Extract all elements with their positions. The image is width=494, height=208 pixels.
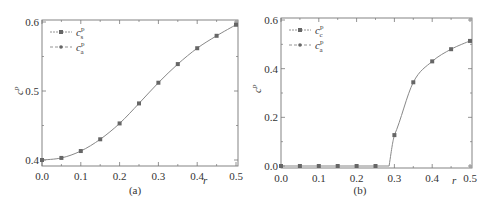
x-axis: 0.00.10.20.30.40.5 <box>35 20 243 182</box>
plot-frame <box>42 20 238 166</box>
chart-a: 0.00.10.20.30.40.50.40.50.6cpr(a)cpscpa <box>0 0 247 208</box>
data-point-marker <box>98 137 102 141</box>
data-point-marker <box>468 39 472 43</box>
x-tick-label: 0.0 <box>274 172 288 184</box>
y-axis-label: cp <box>12 86 25 95</box>
data-point-marker <box>79 149 83 153</box>
x-tick-label: 0.2 <box>113 170 127 182</box>
legend-entry: cpc <box>315 23 324 39</box>
x-tick-label: 0.5 <box>463 172 477 184</box>
y-tick-label: 0.6 <box>25 16 39 28</box>
data-point-marker <box>195 46 199 50</box>
data-point-marker <box>317 164 321 168</box>
x-tick-label: 0.1 <box>312 172 326 184</box>
y-tick-label: 0.4 <box>25 154 39 166</box>
figure: 0.00.10.20.30.40.50.40.50.6cpr(a)cpscpa … <box>0 0 494 208</box>
data-point-marker <box>118 121 122 125</box>
y-tick-label: 0.5 <box>25 85 39 97</box>
y-axis: 0.00.20.40.6 <box>264 14 472 172</box>
x-tick-label: 0.3 <box>388 172 402 184</box>
data-point-marker <box>40 158 44 162</box>
panel-label: (a) <box>129 184 142 197</box>
data-point-marker <box>430 59 434 63</box>
x-tick-label: 0.4 <box>425 172 439 184</box>
series-line <box>281 41 470 166</box>
x-tick-label: 0.2 <box>350 172 364 184</box>
plot-frame <box>281 18 472 168</box>
data-point-marker <box>234 23 238 27</box>
panel-label: (b) <box>354 184 367 197</box>
data-point-marker <box>137 101 141 105</box>
data-point-marker <box>374 164 378 168</box>
x-axis: 0.00.10.20.30.40.5 <box>274 18 477 184</box>
legend: cpscpa <box>50 25 85 56</box>
data-point-marker <box>215 34 219 38</box>
y-tick-label: 0.0 <box>264 160 278 172</box>
data-point-marker <box>59 156 63 160</box>
series-line <box>42 25 236 160</box>
y-tick-label: 0.4 <box>264 63 278 75</box>
x-tick-label: 0.1 <box>74 170 88 182</box>
y-tick-label: 0.2 <box>264 111 278 123</box>
data-point-marker <box>392 133 396 137</box>
legend-entry: cpa <box>76 40 85 56</box>
data-point-marker <box>355 164 359 168</box>
x-tick-label: 0.0 <box>35 170 49 182</box>
data-point-marker <box>176 62 180 66</box>
y-axis: 0.40.50.6 <box>25 16 238 166</box>
legend-entry: cpa <box>315 38 324 54</box>
data-point-marker <box>298 164 302 168</box>
y-tick-label: 0.6 <box>264 14 278 26</box>
x-tick-label: 0.5 <box>229 170 243 182</box>
data-point-marker <box>336 164 340 168</box>
legend-entry: cps <box>76 25 85 41</box>
data-point-marker <box>411 80 415 84</box>
data-point-marker <box>156 81 160 85</box>
legend: cpccpa <box>289 23 324 54</box>
data-point-marker <box>279 164 283 168</box>
x-axis-label: r <box>452 174 457 186</box>
data-point-marker <box>449 47 453 51</box>
x-tick-label: 0.3 <box>152 170 166 182</box>
y-axis-label: cp <box>250 84 263 93</box>
chart-b: 0.00.10.20.30.40.50.00.20.40.6cpr(b)cpcc… <box>244 0 491 208</box>
x-axis-label: r <box>203 174 208 186</box>
